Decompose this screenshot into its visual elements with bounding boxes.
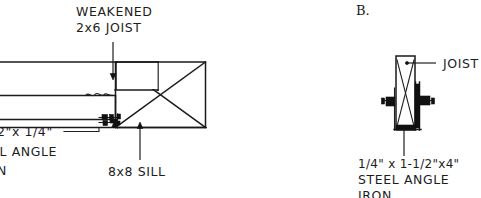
bolt-head-5: [117, 121, 120, 125]
panel-b-drawing: [382, 56, 437, 156]
angle-callout-b-line1: 1/4" x 1-1/2"x4": [358, 157, 459, 173]
bolt-nut-right: [432, 98, 435, 104]
joist-overlap-mask: [117, 63, 158, 89]
panel-a-drawing: [0, 42, 206, 160]
joist-callout-dot: [405, 61, 408, 64]
angle-callout-a-line3: N: [0, 163, 7, 179]
angle-callout-a-line1: 2"x 1/4": [0, 124, 53, 140]
bolt-head-2: [110, 115, 114, 120]
panel-b-letter: B.: [356, 3, 370, 18]
bolt-head-3: [103, 121, 108, 126]
angle-callout-b-line2: STEEL ANGLE: [358, 172, 449, 188]
bolt-head-1: [102, 115, 108, 120]
angle-iron-solid-profile: [110, 120, 117, 128]
sill-callout: 8x8 SILL: [108, 164, 166, 180]
weakened-joist-callout-line1: WEAKENED: [76, 4, 153, 20]
angle-wing-left: [386, 97, 395, 106]
angle-bottom-solid: [396, 125, 415, 130]
angle-callout-a-line2: EL ANGLE: [0, 144, 57, 160]
figure-root: WEAKENED 2x6 JOIST 8x8 SILL 2"x 1/4" EL …: [0, 0, 481, 198]
joist-callout-b: JOIST: [443, 56, 479, 72]
angle-wing-right: [420, 96, 430, 105]
steel-angle-detail-a: [99, 114, 121, 128]
bolt-nut-left: [382, 98, 385, 104]
sill-leader-arrowhead: [137, 122, 143, 129]
angle-iron-right-solid: [415, 84, 420, 128]
bolt-head-4: [117, 114, 121, 119]
angle-callout-b-line3: IRON: [358, 188, 392, 198]
weakened-joist-callout-line2: 2x6 JOIST: [76, 20, 141, 36]
